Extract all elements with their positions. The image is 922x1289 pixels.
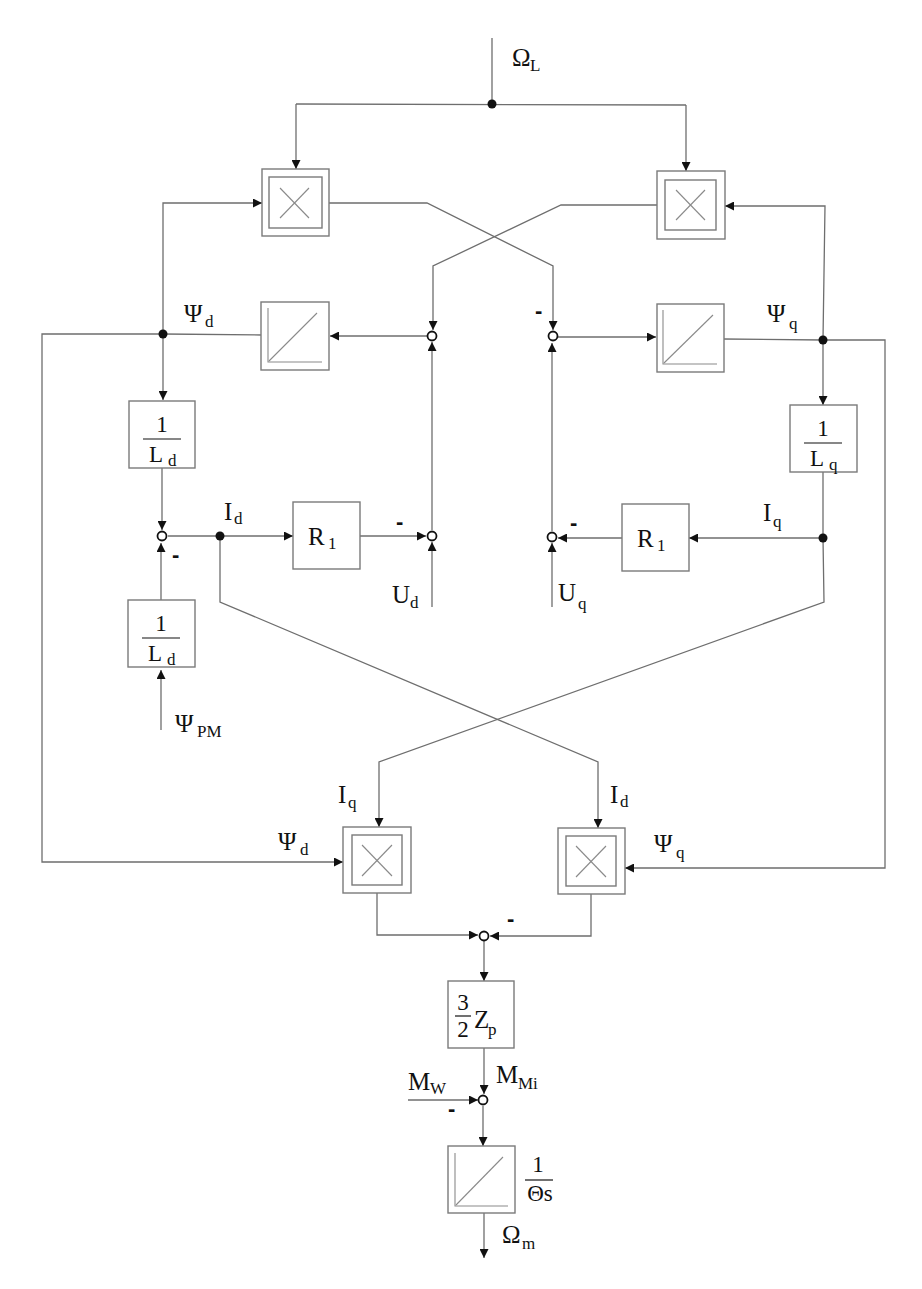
mech-int-den: Θs — [527, 1181, 553, 1206]
sum-u-q — [548, 533, 557, 542]
label-omega-m-sub: m — [522, 1234, 535, 1253]
sum-load — [479, 1096, 488, 1105]
label-m-mi: M — [496, 1061, 518, 1088]
r1-q-symbol: R — [637, 525, 654, 552]
label-psi-pm: Ψ — [175, 710, 194, 737]
minus-u-q: - — [570, 510, 577, 535]
branch-points — [159, 100, 828, 543]
resistor-block-d: R 1 — [293, 502, 360, 569]
label-psi-d-lower: Ψ — [278, 828, 297, 855]
minus-i-d: - — [172, 542, 179, 567]
label-psi-d: Ψ — [184, 300, 203, 327]
label-i-d-lower-sub: d — [620, 792, 629, 811]
label-i-q: I — [763, 499, 771, 526]
label-u-q-sub: q — [578, 594, 587, 613]
label-i-d-lower: I — [610, 781, 618, 808]
branch-psi-q — [819, 336, 828, 345]
multiplier-top-left — [262, 169, 329, 236]
torque-gain-num: 3 — [457, 990, 469, 1015]
branch-i-q — [819, 534, 828, 543]
label-psi-q: Ψ — [767, 300, 786, 327]
integrator-psi-q — [657, 304, 724, 372]
gain-inv-ld-pm-den: L — [148, 641, 162, 666]
r1-q-sub: 1 — [657, 536, 666, 555]
label-psi-q-lower: Ψ — [654, 830, 673, 857]
gain-inv-ld-den-sub: d — [168, 451, 177, 470]
torque-gain-block: 3 2 Z p — [448, 981, 514, 1048]
label-i-d-sub: d — [234, 509, 243, 528]
gain-inv-lq-den-sub: q — [829, 455, 838, 474]
sum-i-d — [158, 532, 167, 541]
sum-u-d — [428, 532, 437, 541]
label-i-d: I — [224, 498, 232, 525]
gain-inv-lq: 1 L q — [790, 405, 857, 474]
label-u-d-sub: d — [410, 593, 419, 612]
r1-d-symbol: R — [308, 523, 325, 550]
label-omega-l-sub: L — [530, 56, 540, 75]
minus-load: - — [448, 1096, 455, 1121]
label-u-q: U — [558, 579, 576, 606]
torque-gain-den: 2 — [457, 1017, 469, 1042]
multiplier-top-right — [657, 171, 725, 239]
label-m-w-sub: W — [430, 1079, 447, 1098]
label-m-mi-sub: Mi — [518, 1074, 538, 1093]
branch-omega-l — [488, 100, 497, 109]
gain-inv-ld-pm: 1 L d — [128, 600, 195, 669]
sum-psi-q — [549, 332, 558, 341]
label-omega-m: Ω — [502, 1221, 521, 1248]
label-m-w: M — [408, 1068, 430, 1095]
branch-i-d — [216, 532, 225, 541]
multiplier-bottom-right — [558, 828, 625, 894]
gain-inv-ld-den: L — [149, 442, 163, 467]
label-psi-pm-sub: PM — [197, 722, 222, 741]
resistor-block-q: R 1 — [622, 504, 689, 571]
gain-inv-ld: 1 L d — [129, 401, 195, 470]
minus-torque: - — [507, 906, 514, 931]
sum-torque — [480, 932, 489, 941]
r1-d-sub: 1 — [328, 534, 337, 553]
label-psi-d-lower-sub: d — [300, 840, 309, 859]
sum-psi-d — [428, 332, 437, 341]
label-psi-q-lower-sub: q — [676, 843, 685, 862]
mech-int-num: 1 — [532, 1152, 544, 1177]
label-psi-d-sub: d — [205, 312, 214, 331]
label-u-d: U — [392, 581, 410, 608]
minus-signs: - - - - - - — [172, 298, 577, 1121]
label-i-q-lower-sub: q — [348, 793, 357, 812]
pmsm-block-diagram: 1 L d 1 L q 1 L d R 1 R 1 — [0, 0, 922, 1289]
gain-inv-lq-den: L — [810, 446, 824, 471]
branch-psi-d — [159, 330, 168, 339]
multiplier-bottom-left — [343, 827, 411, 893]
minus-u-d: - — [396, 509, 403, 534]
gain-inv-ld-pm-num: 1 — [155, 611, 167, 636]
minus-psi-q: - — [535, 298, 542, 323]
torque-gain-sub: p — [488, 1020, 497, 1039]
torque-gain-symbol: Z — [474, 1006, 489, 1033]
label-omega-l: Ω — [512, 44, 531, 71]
label-psi-q-sub: q — [789, 314, 798, 333]
label-i-q-lower: I — [338, 781, 346, 808]
gain-inv-lq-num: 1 — [817, 416, 829, 441]
label-i-q-sub: q — [773, 512, 782, 531]
integrator-omega: 1 Θs — [448, 1146, 553, 1213]
gain-inv-ld-pm-den-sub: d — [167, 650, 176, 669]
gain-inv-ld-num: 1 — [156, 412, 168, 437]
integrator-psi-d — [261, 302, 329, 370]
